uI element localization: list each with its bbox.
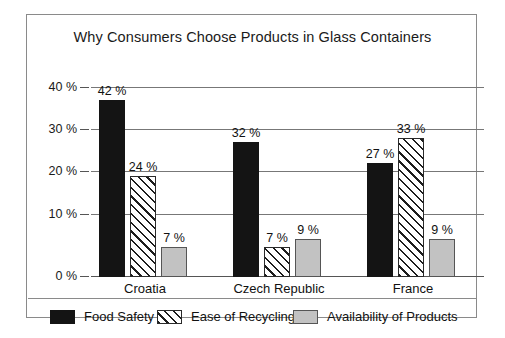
bar-czech-republic-availability-of-products[interactable]: 9 %	[295, 239, 321, 277]
chart-title: Why Consumers Choose Products in Glass C…	[27, 29, 478, 45]
legend-label: Food Safety	[84, 309, 154, 324]
bar-value-label: 42 %	[98, 84, 127, 98]
bar-france-availability-of-products[interactable]: 9 %	[429, 239, 455, 277]
bar-france-food-safety[interactable]: 27 %	[367, 163, 393, 277]
bar-group-czech-republic: 32 % 7 % 9 % Czech Republic	[233, 87, 325, 277]
bar-croatia-food-safety[interactable]: 42 %	[99, 100, 125, 277]
category-label-france: France	[393, 281, 433, 296]
tick-mark	[80, 171, 89, 172]
plot-area: 40 % 30 % 20 % 10 % 0 % 42 %	[91, 87, 484, 277]
tick-mark	[80, 276, 89, 277]
bar-value-label: 7 %	[266, 231, 288, 245]
y-tick-label-10: 10 %	[49, 207, 78, 221]
legend-item-ease-of-recycling[interactable]: Ease of Recycling	[157, 309, 295, 324]
bar-value-label: 7 %	[163, 231, 185, 245]
bar-czech-republic-ease-of-recycling[interactable]: 7 %	[264, 247, 290, 277]
legend-swatch-icon	[50, 310, 75, 324]
y-tick-label-0: 0 %	[55, 269, 77, 283]
bar-czech-republic-food-safety[interactable]: 32 %	[233, 142, 259, 277]
y-tick-label-20: 20 %	[49, 164, 78, 178]
bar-group-croatia: 42 % 24 % 7 % Croatia	[99, 87, 191, 277]
legend-item-food-safety[interactable]: Food Safety	[50, 309, 154, 324]
legend-label: Availability of Products	[327, 309, 458, 324]
category-label-czech-republic: Czech Republic	[233, 281, 324, 296]
bar-croatia-availability-of-products[interactable]: 7 %	[161, 247, 187, 277]
tick-mark	[80, 214, 89, 215]
tick-mark	[80, 129, 89, 130]
tick-mark	[80, 87, 89, 88]
bar-croatia-ease-of-recycling[interactable]: 24 %	[130, 176, 156, 277]
chart-frame: Why Consumers Choose Products in Glass C…	[26, 14, 477, 318]
category-label-croatia: Croatia	[124, 281, 166, 296]
bar-value-label: 32 %	[232, 126, 261, 140]
y-tick-label-30: 30 %	[49, 122, 78, 136]
legend-swatch-icon	[293, 310, 318, 324]
legend-swatch-icon	[157, 310, 182, 324]
bar-value-label: 27 %	[366, 147, 395, 161]
legend-divider	[28, 298, 477, 299]
bar-france-ease-of-recycling[interactable]: 33 %	[398, 138, 424, 277]
bar-value-label: 24 %	[129, 160, 158, 174]
bar-value-label: 33 %	[397, 122, 426, 136]
chart-legend: Food Safety Ease of Recycling Availabili…	[27, 303, 478, 331]
y-tick-label-40: 40 %	[49, 80, 78, 94]
bar-group-france: 27 % 33 % 9 % France	[367, 87, 459, 277]
bar-value-label: 9 %	[431, 223, 453, 237]
bar-value-label: 9 %	[297, 223, 319, 237]
legend-item-availability-of-products[interactable]: Availability of Products	[293, 309, 458, 324]
legend-label: Ease of Recycling	[191, 309, 295, 324]
